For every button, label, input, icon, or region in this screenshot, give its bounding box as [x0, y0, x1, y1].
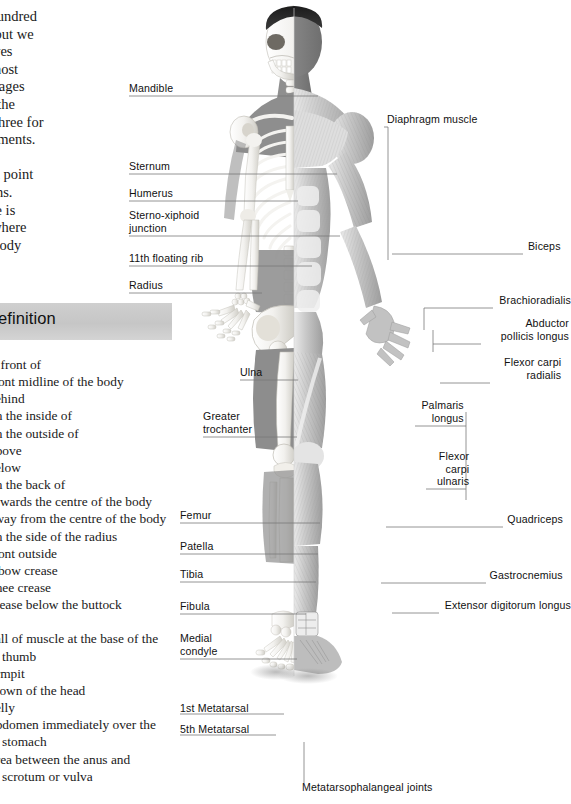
- label-metatarsophalangeal-joints: Metatarsophalangeal joints: [302, 781, 433, 794]
- label-1st-metatarsal: 1st Metatarsal: [180, 702, 249, 715]
- label-patella: Patella: [180, 540, 213, 553]
- definition-list-item: On the side of the radius: [0, 528, 172, 545]
- label-diaphragm-muscle: Diaphragm muscle: [0, 113, 571, 126]
- label-sternum: Sternum: [129, 160, 170, 173]
- label-mandible: Mandible: [129, 82, 173, 95]
- definition-list-item: Belly: [0, 699, 172, 716]
- label-biceps: Biceps: [0, 240, 571, 253]
- label-brachioradialis: Brachioradialis: [0, 294, 571, 307]
- definition-list-item: Front outside: [0, 545, 172, 562]
- label-abductor-pollicis-longus: Abductor pollicis longus: [0, 317, 571, 342]
- label-palmaris-longus: Palmaris longus: [0, 399, 571, 424]
- definition-list-item: Ball of muscle at the base of the thumb: [0, 630, 172, 664]
- label-extensor-digitorum-longus: Extensor digitorum longus: [0, 599, 571, 612]
- label-11th-floating-rib: 11th floating rib: [129, 252, 203, 265]
- intro-paragraph: er three hundred ne body, but we rn ours…: [0, 8, 122, 254]
- definition-list-item: Area between the anus and scrotum or vul…: [0, 751, 172, 785]
- definition-list-item: Abdomen immediately over the stomach: [0, 716, 172, 750]
- label-flexor-carpi-ulnaris: Flexor carpi ulnaris: [0, 450, 571, 488]
- label-radius: Radius: [129, 279, 163, 292]
- definition-list-item: Armpit: [0, 665, 172, 682]
- definition-list-spacer: [0, 613, 172, 630]
- label-medial-condyle: Medial condyle: [180, 632, 218, 657]
- label-gastrocnemius: Gastrocnemius: [0, 569, 571, 582]
- definition-list-item: Towards the centre of the body: [0, 493, 172, 510]
- label-quadriceps: Quadriceps: [0, 513, 571, 526]
- definition-list-item: On the outside of: [0, 425, 172, 442]
- label-sterno-xiphoid-junction: Sterno-xiphoid junction: [129, 209, 199, 234]
- label-5th-metatarsal: 5th Metatarsal: [180, 723, 249, 736]
- label-flexor-carpi-radialis: Flexor carpi radialis: [0, 356, 571, 381]
- definition-list-item: Crown of the head: [0, 682, 172, 699]
- definition-list-item: Knee crease: [0, 579, 172, 596]
- label-humerus: Humerus: [129, 187, 173, 200]
